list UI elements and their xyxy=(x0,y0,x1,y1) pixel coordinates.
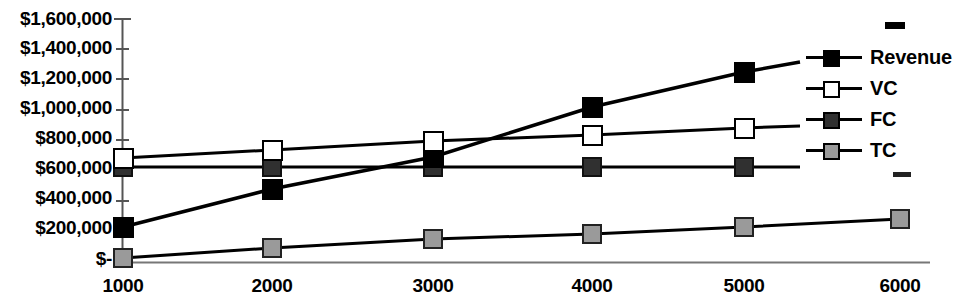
legend-item-tc[interactable]: TC xyxy=(806,137,896,163)
line-chart: $1,600,000 $1,400,000 $1,200,000 $1,000,… xyxy=(0,0,959,302)
legend-label: TC xyxy=(870,140,896,160)
artifact-dash-top xyxy=(885,22,905,29)
legend-item-fc[interactable]: FC xyxy=(806,106,896,132)
legend-marker-black-square-icon xyxy=(806,46,862,68)
series-markers-tc xyxy=(114,210,909,267)
legend-marker-white-square-icon xyxy=(806,77,862,99)
legend-marker-gray-square-icon xyxy=(806,139,862,161)
legend-item-revenue[interactable]: Revenue xyxy=(806,44,952,70)
legend-label: FC xyxy=(870,109,896,129)
series-line-vc xyxy=(123,126,800,158)
legend-label: VC xyxy=(870,78,897,98)
legend-label: Revenue xyxy=(870,47,952,67)
legend: Revenue VC FC TC xyxy=(806,44,956,170)
legend-marker-darkgray-square-icon xyxy=(806,108,862,130)
artifact-dash-bottom xyxy=(893,172,911,177)
series-line-revenue xyxy=(123,62,800,227)
legend-item-vc[interactable]: VC xyxy=(806,75,897,101)
series-line-tc xyxy=(123,219,900,258)
